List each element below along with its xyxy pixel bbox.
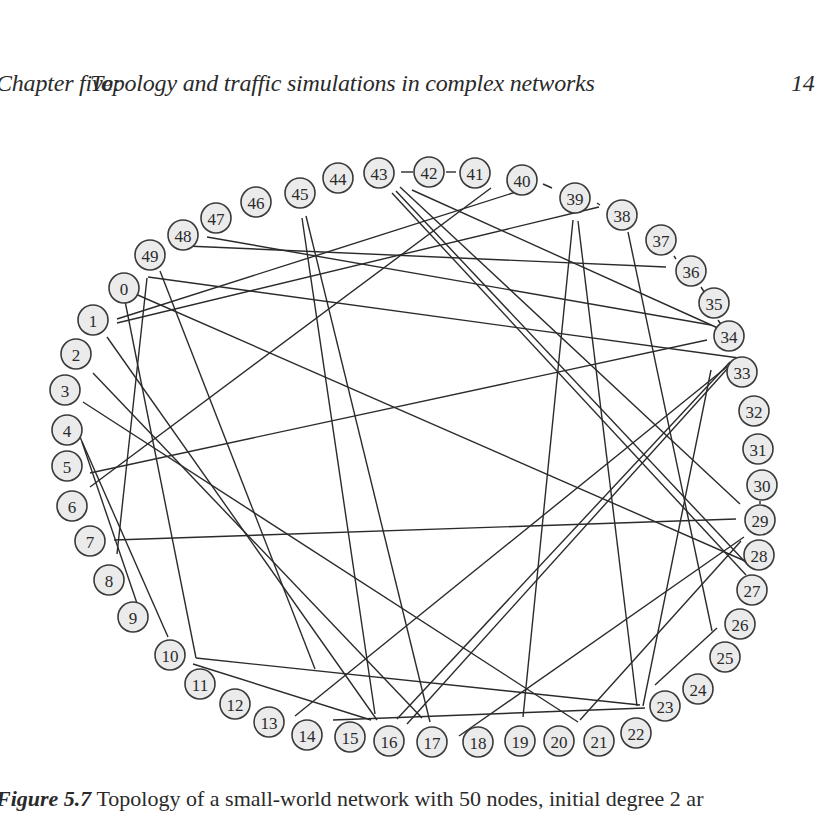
node-label: 9 (129, 609, 138, 628)
figure-label: Figure 5.7 (0, 786, 91, 811)
node-label: 36 (683, 263, 700, 282)
node-label: 0 (120, 280, 129, 299)
node-label: 37 (653, 232, 671, 251)
network-node-38: 38 (607, 200, 637, 230)
node-label: 15 (342, 729, 359, 748)
network-node-41: 41 (460, 158, 490, 188)
network-edge (597, 203, 600, 205)
node-label: 16 (381, 733, 398, 752)
network-edge (674, 256, 676, 259)
network-node-35: 35 (699, 288, 729, 318)
node-label: 18 (470, 734, 487, 753)
node-label: 22 (628, 725, 645, 744)
network-edge (207, 237, 711, 325)
network-node-30: 30 (747, 470, 777, 500)
network-node-17: 17 (417, 727, 447, 757)
node-label: 49 (142, 247, 159, 266)
network-node-37: 37 (646, 225, 676, 255)
network-node-2: 2 (61, 339, 91, 369)
network-node-49: 49 (135, 240, 165, 270)
node-label: 38 (614, 207, 631, 226)
node-label: 3 (61, 382, 70, 401)
node-label: 19 (512, 733, 529, 752)
network-node-21: 21 (584, 726, 614, 756)
network-node-10: 10 (155, 640, 185, 670)
network-node-34: 34 (714, 321, 744, 351)
node-label: 45 (292, 185, 309, 204)
network-node-40: 40 (507, 165, 537, 195)
network-node-39: 39 (560, 183, 590, 213)
network-edge (400, 187, 740, 504)
node-label: 33 (734, 364, 751, 383)
node-label: 2 (72, 346, 81, 365)
node-label: 28 (751, 547, 768, 566)
network-node-24: 24 (683, 674, 713, 704)
node-label: 34 (721, 328, 739, 347)
network-edge (397, 362, 730, 719)
node-label: 20 (551, 733, 568, 752)
node-label: 13 (261, 714, 278, 733)
network-node-0: 0 (109, 273, 139, 303)
network-node-4: 4 (52, 415, 82, 445)
network-edge (302, 218, 375, 714)
network-node-47: 47 (201, 203, 231, 233)
network-node-8: 8 (94, 565, 124, 595)
network-node-25: 25 (710, 642, 740, 672)
node-label: 4 (63, 422, 72, 441)
node-label: 25 (717, 649, 734, 668)
node-label: 39 (567, 190, 584, 209)
network-node-14: 14 (292, 720, 322, 750)
network-node-18: 18 (463, 727, 493, 757)
network-edge (407, 368, 728, 724)
node-label: 5 (63, 458, 72, 477)
node-label: 26 (732, 616, 749, 635)
network-node-33: 33 (727, 357, 757, 387)
network-node-36: 36 (676, 256, 706, 286)
network-node-20: 20 (544, 726, 574, 756)
node-label: 43 (371, 165, 388, 184)
network-node-32: 32 (739, 396, 769, 426)
network-node-19: 19 (505, 726, 535, 756)
network-node-15: 15 (335, 722, 365, 752)
network-node-45: 45 (285, 178, 315, 208)
network-node-11: 11 (185, 669, 215, 699)
network-edge (523, 220, 573, 717)
network-edge (114, 519, 736, 540)
node-label: 23 (657, 698, 674, 717)
node-label: 17 (424, 734, 442, 753)
network-node-23: 23 (650, 691, 680, 721)
network-node-1: 1 (78, 305, 108, 335)
network-edge (459, 537, 744, 736)
node-label: 1 (89, 312, 98, 331)
network-node-5: 5 (52, 451, 82, 481)
network-node-16: 16 (374, 726, 404, 756)
network-node-42: 42 (414, 157, 444, 187)
node-label: 31 (750, 441, 767, 460)
node-label: 47 (208, 210, 226, 229)
network-edge (396, 191, 748, 565)
node-label: 8 (105, 572, 114, 591)
node-label: 29 (752, 512, 769, 531)
node-label: 30 (754, 477, 771, 496)
network-node-44: 44 (323, 163, 353, 193)
node-label: 24 (690, 681, 708, 700)
node-label: 41 (467, 165, 484, 184)
node-label: 12 (227, 696, 244, 715)
network-edge (295, 366, 728, 716)
network-node-29: 29 (745, 505, 775, 535)
network-node-9: 9 (118, 602, 148, 632)
node-label: 35 (706, 295, 723, 314)
network-node-31: 31 (743, 434, 773, 464)
node-label: 42 (421, 164, 438, 183)
network-edge (196, 658, 640, 705)
network-edge (333, 708, 645, 720)
network-edge (543, 184, 552, 188)
node-label: 46 (248, 194, 265, 213)
network-edge (93, 373, 422, 718)
node-label: 44 (330, 170, 348, 189)
network-edge (655, 628, 717, 685)
network-node-3: 3 (50, 375, 80, 405)
node-label: 32 (746, 403, 763, 422)
